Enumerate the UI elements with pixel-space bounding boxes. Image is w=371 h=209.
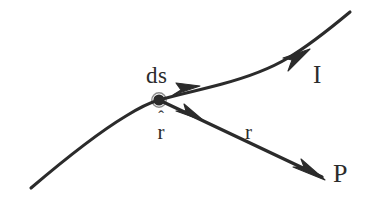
unit-vector-label: ˆ r — [150, 112, 172, 142]
source-point-dot — [153, 94, 164, 105]
field-point-label: P — [333, 161, 347, 187]
biot-savart-diagram: ds ˆ r r I P — [0, 0, 371, 209]
unit-vector-base-letter: r — [150, 122, 172, 142]
current-element-label: ds — [146, 64, 167, 87]
diagram-canvas — [0, 0, 371, 209]
current-label: I — [313, 62, 321, 87]
r-arrowhead-near-source — [176, 104, 204, 121]
distance-vector-label: r — [245, 122, 252, 143]
r-arrowhead-at-p — [293, 159, 325, 180]
